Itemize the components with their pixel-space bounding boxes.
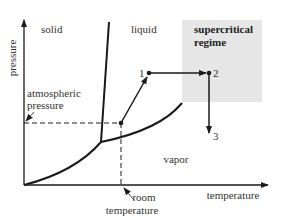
point-2-label: 2: [213, 67, 219, 79]
room-label-line1: room: [132, 191, 156, 203]
phase-diagram: pressure temperature solid liquid vapor …: [0, 0, 282, 223]
supercritical-label-line2: regime: [194, 36, 226, 48]
atmospheric-label-line1: atmospheric: [27, 87, 81, 99]
sublimation-curve: [24, 142, 101, 185]
y-axis-label: pressure: [6, 40, 18, 77]
vapor-label: vapor: [163, 153, 188, 165]
atmospheric-label-line2: pressure: [27, 99, 64, 111]
path-arrow-0-1: [121, 77, 147, 123]
supercritical-label-line1: supercritical: [194, 23, 253, 35]
liquid-label: liquid: [131, 23, 157, 35]
point-1-label: 1: [139, 67, 145, 79]
solid-label: solid: [41, 23, 63, 35]
room-label-line2: temperature: [106, 204, 159, 216]
melting-curve: [101, 22, 109, 142]
point-3-label: 3: [213, 130, 219, 142]
atmospheric-pointer-arrow: [26, 112, 34, 121]
x-axis-label: temperature: [207, 189, 260, 201]
